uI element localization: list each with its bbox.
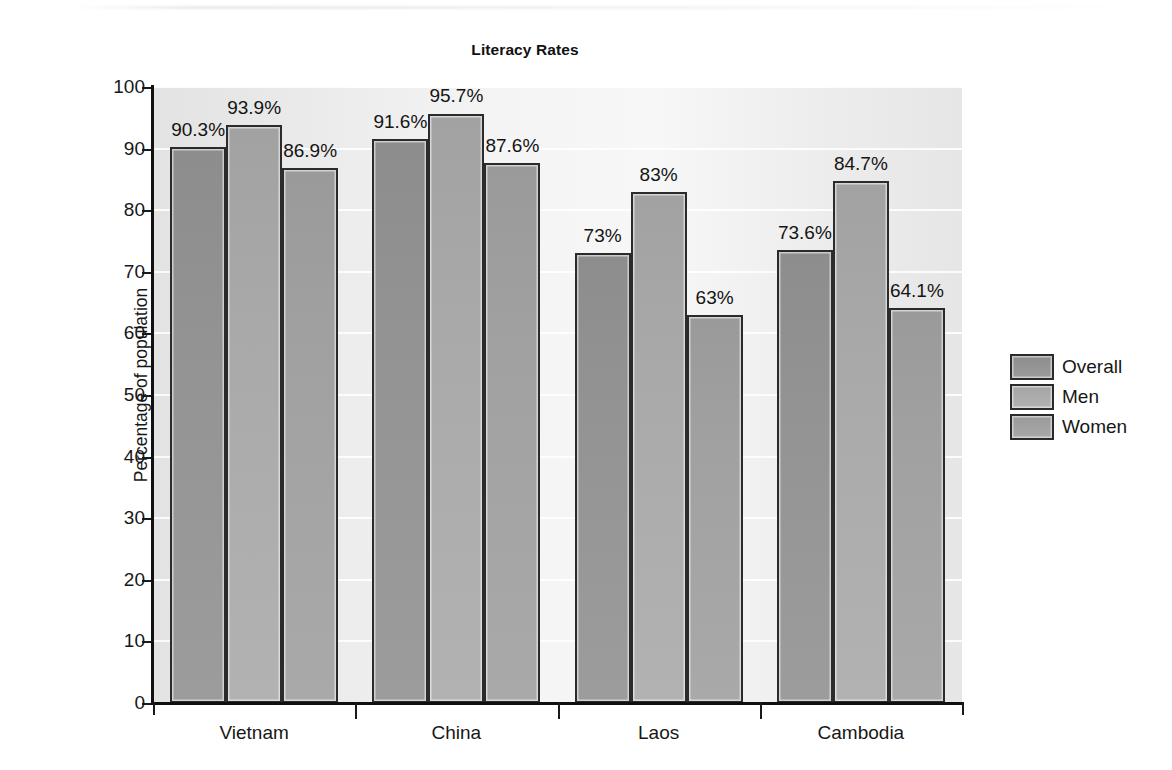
y-axis: 1009080706050403020100 <box>151 85 154 705</box>
x-tick-mark-end <box>153 702 155 715</box>
bar-value-label: 87.6% <box>485 135 539 157</box>
legend-label: Overall <box>1062 356 1122 378</box>
legend-label: Women <box>1062 416 1127 438</box>
bar-series-container <box>153 87 962 703</box>
bar-value-label: 63% <box>696 287 734 309</box>
x-axis-label-laos: Laos <box>638 722 679 744</box>
chart-legend: OverallMenWomen <box>1010 352 1160 442</box>
y-tick-label: 10 <box>124 630 145 652</box>
bar-value-label: 73% <box>584 225 622 247</box>
bar-laos-women[interactable] <box>687 315 743 703</box>
legend-label: Men <box>1062 386 1099 408</box>
legend-swatch-women <box>1010 414 1054 440</box>
x-tick-mark-end <box>962 702 964 715</box>
legend-item-overall[interactable]: Overall <box>1010 352 1160 382</box>
bar-vietnam-overall[interactable] <box>170 147 226 703</box>
bar-value-label: 91.6% <box>373 111 427 133</box>
bar-value-label: 86.9% <box>283 140 337 162</box>
bar-value-label: 95.7% <box>429 85 483 107</box>
y-tick-label: 100 <box>113 76 145 98</box>
y-tick-label: 30 <box>124 507 145 529</box>
legend-swatch-men <box>1010 384 1054 410</box>
chart-title: Literacy Rates <box>0 41 1050 59</box>
bar-value-label: 73.6% <box>778 222 832 244</box>
x-axis-label-vietnam: Vietnam <box>219 722 288 744</box>
x-axis-label-china: China <box>432 722 482 744</box>
scan-artifact-line <box>70 6 1160 9</box>
y-tick-label: 0 <box>134 692 145 714</box>
bar-vietnam-men[interactable] <box>226 125 282 703</box>
y-tick-label: 40 <box>124 446 145 468</box>
bar-value-label: 83% <box>640 164 678 186</box>
bar-china-overall[interactable] <box>372 139 428 703</box>
chart-page: Literacy Rates Percentage of population … <box>0 0 1172 770</box>
x-tick-mark <box>355 702 357 719</box>
legend-item-women[interactable]: Women <box>1010 412 1160 442</box>
legend-swatch-overall <box>1010 354 1054 380</box>
bar-china-men[interactable] <box>428 114 484 704</box>
legend-item-men[interactable]: Men <box>1010 382 1160 412</box>
bar-value-label: 90.3% <box>171 119 225 141</box>
plot-area <box>153 87 962 703</box>
bar-value-label: 93.9% <box>227 97 281 119</box>
x-tick-mark <box>558 702 560 719</box>
y-tick-label: 80 <box>124 199 145 221</box>
bar-laos-men[interactable] <box>631 192 687 703</box>
x-tick-mark <box>760 702 762 719</box>
bar-cambodia-women[interactable] <box>889 308 945 703</box>
y-tick-label: 60 <box>124 322 145 344</box>
bar-cambodia-overall[interactable] <box>777 250 833 703</box>
y-tick-label: 90 <box>124 138 145 160</box>
bar-china-women[interactable] <box>484 163 540 703</box>
bar-vietnam-women[interactable] <box>282 168 338 703</box>
bar-cambodia-men[interactable] <box>833 181 889 703</box>
bar-value-label: 64.1% <box>890 280 944 302</box>
y-tick-label: 50 <box>124 384 145 406</box>
bar-laos-overall[interactable] <box>575 253 631 703</box>
bar-value-label: 84.7% <box>834 153 888 175</box>
y-tick-label: 70 <box>124 261 145 283</box>
y-tick-label: 20 <box>124 569 145 591</box>
x-axis-label-cambodia: Cambodia <box>818 722 905 744</box>
